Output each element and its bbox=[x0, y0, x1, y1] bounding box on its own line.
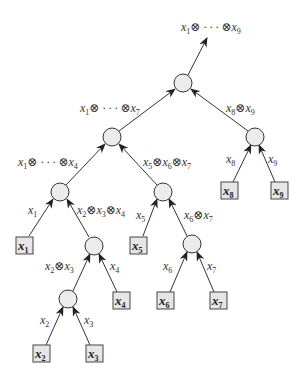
edge-x8-n89 bbox=[233, 145, 251, 182]
node-x8-x9 bbox=[246, 128, 264, 146]
output-edge bbox=[188, 38, 207, 75]
label-n567-left: x5 bbox=[135, 208, 145, 224]
node-x2-x4 bbox=[85, 237, 103, 255]
label-n567-right: x6⊗x7 bbox=[183, 208, 213, 224]
label-root-left: x1⊗ · · · ⊗x7 bbox=[79, 101, 140, 117]
label-n23-left: x2 bbox=[39, 313, 49, 329]
label-root-right: x8⊗x9 bbox=[225, 101, 255, 117]
label-n7-left: x1⊗ · · · ⊗x4 bbox=[17, 155, 78, 171]
label-n234-left: x2⊗x3 bbox=[44, 259, 74, 275]
node-root bbox=[174, 74, 192, 92]
node-x6-x7 bbox=[183, 235, 201, 253]
label-n234-right: x4 bbox=[109, 259, 119, 275]
edge-x6-n67 bbox=[170, 252, 187, 292]
node-x5-x7 bbox=[154, 183, 172, 201]
label-n4-right: x2⊗x3⊗x4 bbox=[76, 203, 125, 219]
label-n67-right: x7 bbox=[206, 259, 216, 275]
node-x2-x3 bbox=[59, 290, 77, 308]
output-label: x1⊗ · · · ⊗x9 bbox=[180, 20, 241, 36]
label-n7-right: x5⊗x6⊗x7 bbox=[142, 155, 191, 171]
label-n4-left: x1 bbox=[27, 203, 37, 219]
reduction-tree-diagram: x1 x2 x3 x4 x5 x6 x7 x8 x9 x1⊗ · · · ⊗x9… bbox=[0, 0, 304, 381]
label-n67-left: x6 bbox=[162, 259, 172, 275]
label-n89-right: x9 bbox=[267, 152, 277, 168]
node-x1-x4 bbox=[51, 183, 69, 201]
node-x1-x7 bbox=[103, 128, 121, 146]
label-n23-right: x3 bbox=[83, 313, 93, 329]
label-n89-left: x8 bbox=[225, 152, 235, 168]
edge-n23-n234 bbox=[73, 254, 90, 291]
